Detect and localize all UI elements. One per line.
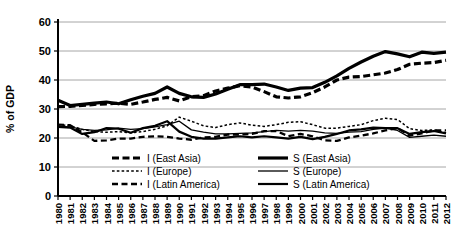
x-tick-label: 1988 (150, 203, 161, 224)
x-tick-label: 1990 (174, 203, 185, 224)
legend-label: S (Europe) (293, 166, 341, 177)
x-tick-label: 1999 (283, 203, 294, 224)
line-chart: 0102030405060 19801981198219831984198519… (0, 0, 459, 242)
x-tick-label: 1985 (114, 202, 125, 224)
x-tick-label: 2012 (441, 203, 452, 224)
y-tick-label: 30 (39, 103, 51, 115)
legend-label: S (Latin America) (293, 179, 370, 190)
x-tick-label: 1995 (235, 202, 246, 224)
legend-label: I (East Asia) (147, 153, 201, 164)
x-axis (58, 196, 446, 200)
x-axis-tick-labels: 1980198119821983198419851986198719881989… (53, 202, 452, 224)
x-tick-label: 2008 (393, 203, 404, 224)
x-tick-label: 2002 (320, 203, 331, 224)
x-tick-label: 2001 (308, 202, 319, 224)
legend-label: S (East Asia) (293, 153, 351, 164)
legend-label: I (Europe) (147, 166, 191, 177)
y-axis (54, 19, 58, 196)
y-axis-label: % of GDP (4, 85, 16, 133)
y-tick-label: 0 (45, 190, 51, 202)
series-line (58, 52, 446, 106)
series-line (58, 117, 446, 133)
x-tick-label: 2011 (429, 202, 440, 223)
series-line (58, 121, 446, 139)
data-series-group (58, 52, 446, 141)
x-tick-label: 1989 (162, 203, 173, 224)
x-tick-label: 1982 (77, 203, 88, 224)
x-tick-label: 2010 (417, 203, 428, 224)
x-tick-label: 1980 (53, 203, 64, 224)
chart-container: 0102030405060 19801981198219831984198519… (0, 0, 459, 242)
x-tick-label: 1998 (271, 203, 282, 224)
x-tick-label: 1997 (259, 203, 270, 224)
x-tick-label: 2009 (405, 203, 416, 224)
legend-label: I (Latin America) (147, 179, 220, 190)
x-tick-label: 1996 (247, 203, 258, 224)
x-tick-label: 1986 (126, 203, 137, 224)
chart-legend: I (East Asia)I (Europe)I (Latin America)… (112, 153, 370, 190)
x-tick-label: 1984 (102, 202, 113, 224)
x-tick-label: 1991 (186, 202, 197, 224)
gridlines (58, 22, 446, 167)
x-tick-label: 1987 (138, 203, 149, 224)
x-tick-label: 1983 (89, 203, 100, 224)
y-tick-label: 20 (39, 132, 51, 144)
y-axis-title: % of GDP (4, 85, 16, 133)
x-tick-label: 2005 (356, 202, 367, 224)
y-tick-label: 60 (39, 16, 51, 28)
x-tick-label: 2003 (332, 203, 343, 224)
x-tick-label: 2000 (296, 203, 307, 224)
y-axis-tick-labels: 0102030405060 (39, 16, 51, 202)
x-tick-label: 2007 (380, 203, 391, 224)
x-tick-label: 2004 (344, 202, 355, 224)
y-tick-label: 40 (39, 74, 51, 86)
x-tick-label: 1993 (211, 203, 222, 224)
y-tick-label: 10 (39, 161, 51, 173)
x-tick-label: 1994 (223, 202, 234, 224)
y-tick-label: 50 (39, 45, 51, 57)
x-tick-label: 1992 (199, 203, 210, 224)
x-tick-label: 2006 (368, 203, 379, 224)
x-tick-label: 1981 (65, 202, 76, 224)
